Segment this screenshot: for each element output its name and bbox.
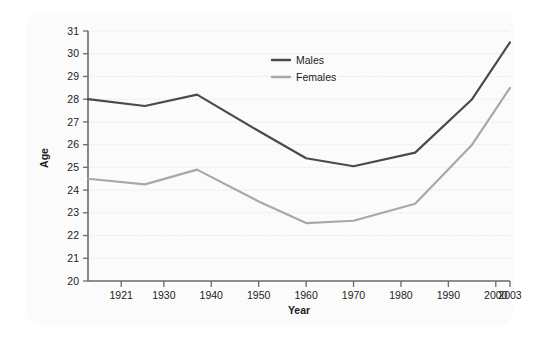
chart-figure: 202122232425262728293031 192119301940195… — [0, 0, 537, 339]
x-tick-label: 1970 — [342, 289, 366, 301]
x-tick-label: 1980 — [389, 289, 413, 301]
y-tick-label: 25 — [67, 161, 79, 173]
y-axis-ticks: 202122232425262728293031 — [67, 25, 88, 287]
y-tick-label: 22 — [67, 229, 79, 241]
x-axis-ticks: 1921193019401950196019701980199020002003 — [110, 281, 522, 301]
x-tick-label: 1950 — [247, 289, 271, 301]
y-tick-label: 29 — [67, 70, 79, 82]
x-tick-label: 1930 — [152, 289, 176, 301]
y-tick-label: 26 — [67, 138, 79, 150]
line-chart: 202122232425262728293031 192119301940195… — [0, 0, 537, 339]
y-tick-label: 20 — [67, 275, 79, 287]
data-series-group — [88, 42, 510, 223]
y-tick-label: 24 — [67, 184, 79, 196]
y-tick-label: 23 — [67, 206, 79, 218]
legend-label-females: Females — [296, 71, 336, 83]
x-tick-label: 1940 — [200, 289, 224, 301]
legend-label-males: Males — [296, 54, 324, 66]
x-tick-label: 1990 — [437, 289, 461, 301]
x-tick-label: 1960 — [294, 289, 318, 301]
y-tick-label: 21 — [67, 252, 79, 264]
x-tick-label: 1921 — [110, 289, 134, 301]
y-tick-label: 31 — [67, 25, 79, 37]
y-axis-title: Age — [38, 148, 50, 168]
x-tick-label: 2003 — [498, 289, 522, 301]
y-tick-label: 27 — [67, 116, 79, 128]
chart-legend: MalesFemales — [272, 54, 336, 83]
y-tick-label: 28 — [67, 93, 79, 105]
x-axis-title: Year — [288, 304, 310, 316]
y-tick-label: 30 — [67, 47, 79, 59]
gridlines — [88, 31, 510, 281]
